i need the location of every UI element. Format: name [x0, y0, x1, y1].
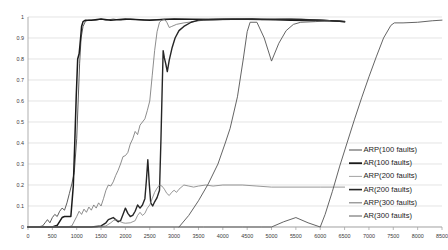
- x-tick-label: 1500: [95, 233, 107, 239]
- x-tick-label: 4500: [241, 233, 253, 239]
- line-chart: 00.10.20.30.40.50.60.70.80.91 0500100015…: [0, 0, 448, 250]
- legend-label-5: AR(300 faults): [364, 211, 413, 220]
- y-tick-label: 0.3: [17, 161, 25, 167]
- chart-container: 00.10.20.30.40.50.60.70.80.91 0500100015…: [0, 0, 448, 250]
- x-tick-label: 3500: [192, 233, 204, 239]
- legend-label-1: AR(100 faults): [364, 158, 413, 167]
- x-tick-label: 6500: [339, 233, 351, 239]
- y-tick-label: 0.2: [17, 182, 25, 188]
- x-axis-tick-labels: 0500100015002000250030003500400045005000…: [27, 227, 448, 239]
- x-tick-label: 8500: [436, 233, 448, 239]
- y-tick-label: 0.5: [17, 119, 25, 125]
- x-tick-label: 3000: [168, 233, 180, 239]
- x-tick-label: 6000: [314, 233, 326, 239]
- legend-label-4: ARP(300 faults): [364, 198, 418, 207]
- y-tick-label: 0: [21, 224, 24, 230]
- y-tick-label: 0.4: [17, 140, 25, 146]
- x-tick-label: 1000: [71, 233, 83, 239]
- legend-label-0: ARP(100 faults): [364, 145, 418, 154]
- legend-label-3: AR(200 faults): [364, 185, 413, 194]
- y-tick-label: 0.7: [17, 77, 25, 83]
- legend-label-2: ARP(200 faults): [364, 171, 418, 180]
- x-tick-label: 500: [48, 233, 57, 239]
- y-tick-label: 1: [21, 14, 24, 20]
- y-tick-label: 0.8: [17, 56, 25, 62]
- x-tick-label: 8000: [412, 233, 424, 239]
- y-axis-tick-labels: 00.10.20.30.40.50.60.70.80.91: [17, 14, 25, 230]
- x-tick-label: 5000: [266, 233, 278, 239]
- x-tick-label: 2000: [119, 233, 131, 239]
- y-tick-label: 0.9: [17, 35, 25, 41]
- x-tick-label: 0: [27, 233, 30, 239]
- y-tick-label: 0.6: [17, 98, 25, 104]
- x-tick-label: 7000: [363, 233, 375, 239]
- x-tick-label: 5500: [290, 233, 302, 239]
- y-tick-label: 0.1: [17, 203, 25, 209]
- x-tick-label: 7500: [387, 233, 399, 239]
- x-tick-label: 4000: [217, 233, 229, 239]
- x-tick-label: 2500: [144, 233, 156, 239]
